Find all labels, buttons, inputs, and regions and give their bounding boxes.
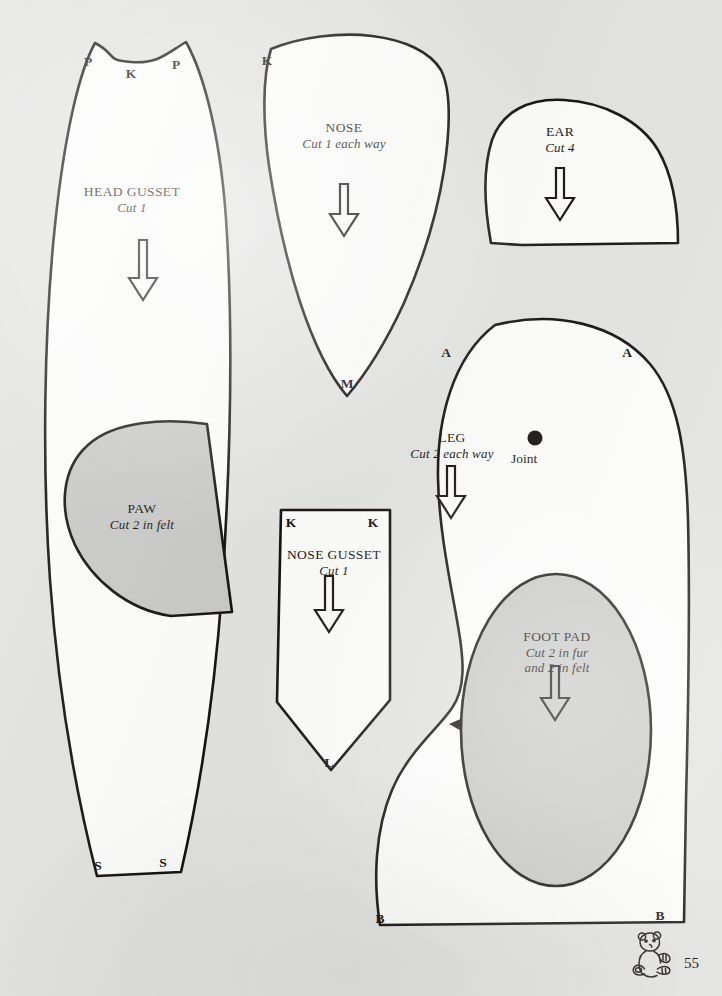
nose-gusset-notch-k-right: K: [365, 515, 381, 531]
head-gusset-notch-s-left: S: [90, 858, 106, 874]
nose-gusset-notch-k-left: K: [283, 515, 299, 531]
head-gusset-notch-s-right: S: [155, 855, 171, 871]
teddy-bear-icon: [632, 928, 678, 984]
leg-notch-a-left: A: [438, 345, 454, 361]
page-number: 55: [684, 955, 699, 972]
head-gusset-notch-k: K: [123, 66, 139, 82]
nose-notch-k: K: [259, 53, 275, 69]
leg-joint-label: Joint: [511, 451, 537, 467]
head-gusset-notch-p-right: P: [168, 57, 184, 73]
nose-gusset-shape[interactable]: [277, 510, 390, 770]
foot-pad-shape[interactable]: [461, 574, 651, 886]
head-gusset-notch-p-left: P: [80, 54, 96, 70]
pattern-pieces-canvas: [0, 0, 722, 996]
ear-shape[interactable]: [486, 100, 679, 245]
leg-joint-dot: [528, 431, 543, 446]
nose-notch-m: M: [339, 376, 355, 392]
leg-notch-b-left: B: [372, 911, 388, 927]
pattern-sheet-page: HEAD GUSSET Cut 1 P K P S S PAW Cut 2 in…: [0, 0, 722, 996]
nose-gusset-notch-l: L: [321, 755, 337, 771]
leg-notch-b-right: B: [652, 908, 668, 924]
leg-notch-a-right: A: [619, 345, 635, 361]
